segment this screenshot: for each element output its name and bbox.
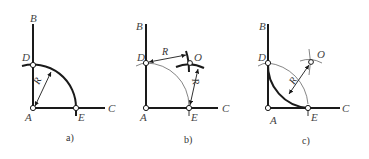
point-e: [186, 105, 191, 110]
caption-a: a): [66, 132, 74, 144]
point-a: [30, 105, 35, 110]
point-o: [188, 61, 193, 66]
label-d: D: [257, 51, 266, 63]
panel-a: B D A E C R a): [21, 12, 116, 144]
radius-arrow-e: [190, 69, 198, 105]
label-b: B: [30, 12, 37, 24]
label-a: A: [24, 111, 32, 123]
panel-c: B D A E C O R c): [257, 20, 350, 147]
radius-arrow: [35, 72, 51, 106]
arc-de-thin: [136, 63, 189, 106]
construction-diagram: B D A E C R a) B D A E C O R R b): [0, 0, 369, 159]
point-o: [309, 60, 314, 65]
label-o: O: [194, 51, 202, 63]
label-d: D: [21, 51, 30, 63]
label-d: D: [136, 51, 145, 63]
label-e: E: [77, 111, 85, 123]
label-c: C: [342, 102, 350, 114]
label-a: A: [139, 111, 147, 123]
panel-b: B D A E C O R R b): [136, 20, 230, 146]
label-b: B: [136, 20, 143, 32]
label-c: C: [108, 102, 116, 114]
label-a: A: [269, 114, 277, 126]
point-a: [143, 105, 148, 110]
caption-c: c): [302, 135, 310, 147]
arc-de-concave: [268, 63, 308, 108]
point-e: [73, 105, 78, 110]
label-o: O: [317, 48, 325, 60]
point-d: [265, 60, 270, 65]
caption-b: b): [184, 134, 192, 146]
label-e: E: [310, 111, 318, 123]
label-e: E: [190, 111, 198, 123]
label-r1: R: [161, 46, 168, 57]
label-r: R: [286, 75, 299, 87]
point-e: [305, 105, 310, 110]
label-b: B: [259, 20, 266, 32]
point-d: [30, 62, 35, 67]
label-r2: R: [190, 76, 202, 85]
point-a: [265, 105, 270, 110]
label-c: C: [222, 102, 230, 114]
